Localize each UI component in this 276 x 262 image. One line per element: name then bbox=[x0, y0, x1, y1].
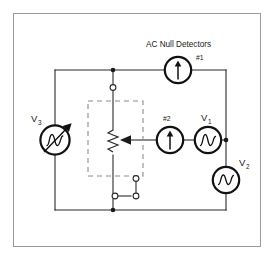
junction-dot-top-center bbox=[111, 68, 116, 73]
junction-dot-bottom-center bbox=[111, 208, 116, 213]
source-v3-label-text: V bbox=[31, 113, 38, 124]
source-v1-label-text: V bbox=[201, 112, 208, 123]
detector-1-symbol bbox=[165, 57, 191, 83]
source-v1-symbol bbox=[195, 127, 221, 153]
source-v2-label: V 2 bbox=[239, 157, 250, 170]
terminal-upper bbox=[110, 85, 116, 91]
terminal-link-right-top bbox=[133, 176, 139, 182]
source-v2-symbol bbox=[213, 167, 239, 193]
resistor-zigzag bbox=[108, 130, 118, 152]
schematic-canvas: AC Null Detectors #1 #2 V 1 V 2 V 3 bbox=[0, 0, 276, 262]
source-v1-label: V 1 bbox=[201, 112, 212, 125]
source-v3-label-sub: 3 bbox=[38, 119, 42, 126]
detector-2-symbol bbox=[157, 127, 183, 153]
wiper-arrow-icon bbox=[120, 135, 131, 145]
junction-dot-right-rail bbox=[224, 138, 229, 143]
detector-1-label: #1 bbox=[196, 54, 204, 61]
source-v1-label-sub: 1 bbox=[208, 118, 212, 125]
source-v2-label-sub: 2 bbox=[246, 163, 250, 170]
terminal-link-right-bottom bbox=[133, 193, 139, 199]
potentiometer-symbol bbox=[108, 130, 131, 152]
diagram-title: AC Null Detectors bbox=[146, 40, 211, 49]
source-v2-label-text: V bbox=[239, 157, 246, 168]
circuit-schematic: AC Null Detectors #1 #2 V 1 V 2 V 3 bbox=[0, 0, 276, 262]
source-v3-label: V 3 bbox=[31, 113, 42, 126]
source-v3-symbol bbox=[40, 123, 71, 154]
terminal-link-left bbox=[112, 193, 118, 199]
detector-2-label: #2 bbox=[163, 115, 171, 122]
